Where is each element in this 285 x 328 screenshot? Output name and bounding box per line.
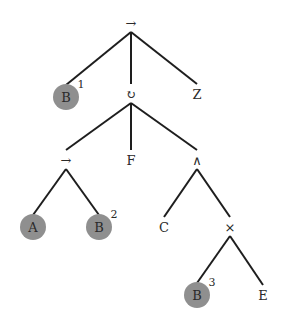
process-tree-diagram: →B1↻Z→F∧AB2C×B3E [0,0,285,328]
highlighted-leaf-node: B2 [86,208,118,241]
node-label: B [192,288,202,303]
node-superscript: 3 [209,276,216,289]
nodes-layer: →B1↻Z→F∧AB2C×B3E [20,16,268,309]
tree-node: ∧ [192,153,202,168]
node-label: F [126,153,135,168]
tree-edge [131,103,197,150]
tree-edge [33,169,66,215]
tree-edge [66,169,99,215]
node-label: × [225,220,236,235]
tree-edge [131,32,197,84]
node-superscript: 1 [78,78,85,91]
node-label: E [258,288,268,303]
node-label: B [94,220,104,235]
tree-edge [164,169,197,217]
node-label: A [27,220,38,235]
tree-node: ↻ [126,87,137,102]
tree-node: E [258,288,268,303]
node-label: C [159,220,169,235]
tree-node: → [61,153,72,168]
tree-node: × [225,220,236,235]
tree-edge [230,236,263,285]
node-label: ↻ [126,87,137,102]
node-label: → [61,153,72,168]
tree-node: C [159,220,169,235]
tree-node: Z [192,87,201,102]
node-label: Z [192,87,201,102]
tree-edge [66,32,131,85]
node-superscript: 2 [111,208,118,221]
tree-node: → [126,16,137,31]
node-label: → [126,16,137,31]
tree-edge [197,169,230,217]
node-label: ∧ [192,153,202,168]
highlighted-leaf-node: A [20,214,46,240]
node-label: B [61,90,71,105]
tree-node: F [126,153,135,168]
tree-edge [66,103,131,150]
